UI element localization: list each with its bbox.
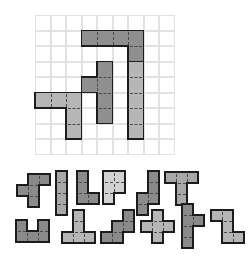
grid-cell[interactable]: [159, 93, 175, 109]
grid-cell[interactable]: [159, 139, 175, 155]
grid-cell[interactable]: [51, 77, 67, 93]
grid-cell[interactable]: [82, 139, 98, 155]
tray-piece-T-pentomino-outline: [197, 171, 198, 183]
puzzle-board[interactable]: [35, 15, 175, 160]
tray-piece-Z-pentomino-seam: [233, 234, 234, 242]
grid-cell[interactable]: [97, 139, 113, 155]
grid-cell[interactable]: [51, 124, 67, 140]
grid-cell[interactable]: [66, 77, 82, 93]
grid-cell[interactable]: [159, 15, 175, 31]
placed-piece-I-pentomino-right-seam: [130, 108, 143, 109]
grid-cell[interactable]: [144, 46, 160, 62]
grid-cell[interactable]: [97, 15, 113, 31]
tray-piece-X-pentomino-seam: [154, 232, 162, 233]
tray-piece-T-pentomino-seam: [176, 174, 177, 182]
tray-piece-P-pentomino-seam: [105, 193, 113, 194]
placed-piece-T-pentomino-center-seam: [99, 77, 112, 78]
placed-piece-L-pentomino-top-cell: [113, 31, 129, 47]
placed-piece-J-pentomino-left-cell: [66, 93, 82, 109]
tray-piece-F-pentomino-outline: [27, 195, 28, 207]
placed-piece-L-pentomino-top-cell: [82, 31, 98, 47]
placed-piece-I-pentomino-right-seam: [130, 124, 143, 125]
grid-cell[interactable]: [66, 62, 82, 78]
grid-cell[interactable]: [113, 46, 129, 62]
grid-cell[interactable]: [35, 108, 51, 124]
grid-cell[interactable]: [51, 15, 67, 31]
grid-cell[interactable]: [35, 46, 51, 62]
grid-cell[interactable]: [51, 108, 67, 124]
tray-piece-V-pentomino-outline: [61, 231, 73, 232]
grid-cell[interactable]: [82, 15, 98, 31]
grid-cell[interactable]: [113, 62, 129, 78]
tray-piece-L-pentomino-seam: [79, 182, 87, 183]
tray-piece-L-pentomino-outline: [98, 192, 99, 204]
tray-piece-W-pentomino-seam: [112, 234, 113, 242]
tray-piece-S-pentomino-outline: [136, 192, 148, 193]
grid-cell[interactable]: [35, 124, 51, 140]
grid-cell[interactable]: [159, 62, 175, 78]
grid-cell[interactable]: [82, 93, 98, 109]
tray-piece-S-pentomino-seam: [148, 195, 149, 203]
grid-cell[interactable]: [35, 77, 51, 93]
grid-cell[interactable]: [159, 46, 175, 62]
tray-piece-I-pentomino-seam: [58, 193, 66, 194]
grid-cell[interactable]: [144, 124, 160, 140]
grid-cell[interactable]: [144, 31, 160, 47]
grid-cell[interactable]: [82, 108, 98, 124]
grid-cell[interactable]: [97, 46, 113, 62]
grid-cell[interactable]: [35, 31, 51, 47]
grid-cell[interactable]: [144, 139, 160, 155]
grid-cell[interactable]: [113, 93, 129, 109]
grid-cell[interactable]: [82, 62, 98, 78]
grid-cell[interactable]: [159, 31, 175, 47]
placed-piece-I-pentomino-right-outline: [127, 123, 129, 140]
grid-cell[interactable]: [35, 62, 51, 78]
grid-cell[interactable]: [66, 139, 82, 155]
grid-cell[interactable]: [128, 139, 144, 155]
grid-cell[interactable]: [144, 108, 160, 124]
tray-piece-U-pentomino-seam: [38, 233, 39, 241]
grid-cell[interactable]: [97, 124, 113, 140]
grid-cell[interactable]: [144, 15, 160, 31]
grid-cell[interactable]: [66, 15, 82, 31]
tray-piece-X-pentomino-outline: [173, 220, 174, 232]
grid-cell[interactable]: [128, 15, 144, 31]
grid-cell[interactable]: [113, 77, 129, 93]
piece-tray[interactable]: [0, 168, 248, 270]
grid-cell[interactable]: [35, 15, 51, 31]
grid-cell[interactable]: [51, 46, 67, 62]
grid-cell[interactable]: [35, 139, 51, 155]
tray-piece-V-pentomino-seam: [75, 221, 83, 222]
grid-cell[interactable]: [144, 93, 160, 109]
placed-piece-J-pentomino-left-outline: [81, 123, 83, 140]
tray-piece-I-pentomino-seam: [58, 182, 66, 183]
tray-piece-Y-pentomino-outline: [203, 214, 204, 226]
tray-piece-V-pentomino-seam: [73, 234, 74, 242]
grid-cell[interactable]: [82, 46, 98, 62]
grid-cell[interactable]: [144, 77, 160, 93]
grid-cell[interactable]: [51, 62, 67, 78]
placed-piece-I-pentomino-right-cell: [128, 93, 144, 109]
grid-cell[interactable]: [66, 31, 82, 47]
grid-cell[interactable]: [113, 139, 129, 155]
grid-cell[interactable]: [144, 62, 160, 78]
grid-cell[interactable]: [82, 124, 98, 140]
grid-cell[interactable]: [66, 46, 82, 62]
placed-piece-T-pentomino-center-cell: [97, 108, 113, 124]
placed-piece-J-pentomino-left-cell: [35, 93, 51, 109]
grid-cell[interactable]: [113, 124, 129, 140]
placed-piece-T-pentomino-center-outline: [81, 76, 98, 78]
grid-cell[interactable]: [159, 77, 175, 93]
grid-cell[interactable]: [113, 15, 129, 31]
placed-piece-J-pentomino-left-cell: [66, 124, 82, 140]
tray-piece-L-pentomino-outline: [76, 192, 77, 204]
grid-cell[interactable]: [113, 108, 129, 124]
grid-cell[interactable]: [51, 139, 67, 155]
tray-piece-L-pentomino-seam: [88, 195, 89, 203]
tray-piece-Y-pentomino-outline: [192, 236, 193, 248]
grid-cell[interactable]: [159, 108, 175, 124]
grid-cell[interactable]: [159, 124, 175, 140]
tray-piece-W-pentomino-outline: [133, 220, 134, 232]
placed-piece-L-pentomino-top-seam: [113, 32, 114, 45]
grid-cell[interactable]: [51, 31, 67, 47]
